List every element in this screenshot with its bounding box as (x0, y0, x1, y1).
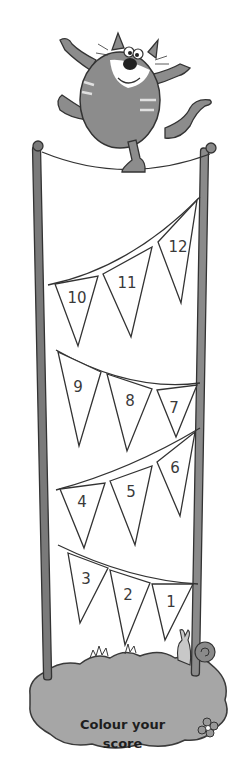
caption: Colour your score (40, 715, 205, 753)
flag-9: 9 (73, 378, 83, 396)
flag-12: 12 (168, 238, 187, 256)
left-post (32, 141, 51, 680)
caption-line-1: Colour your (40, 715, 205, 734)
flag-5: 5 (126, 483, 136, 501)
score-chart-illustration: 12 11 10 9 8 7 6 5 4 3 2 1 (0, 0, 245, 781)
flag-8: 8 (125, 392, 135, 410)
flag-6: 6 (170, 459, 180, 477)
flag-3: 3 (81, 570, 91, 588)
flag-4: 4 (77, 493, 87, 511)
cat-character (58, 33, 211, 172)
flag-10: 10 (67, 289, 86, 307)
caption-line-2: score (40, 734, 205, 753)
flag-2: 2 (123, 586, 133, 604)
bunting-row-1: 12 11 10 (48, 197, 200, 346)
bunting-row-2: 9 8 7 (56, 350, 200, 451)
flag-11: 11 (117, 274, 136, 292)
bunting-row-4: 3 2 1 (58, 545, 198, 645)
right-post (191, 143, 216, 676)
flag-1: 1 (166, 593, 176, 611)
flag-7: 7 (169, 399, 179, 417)
